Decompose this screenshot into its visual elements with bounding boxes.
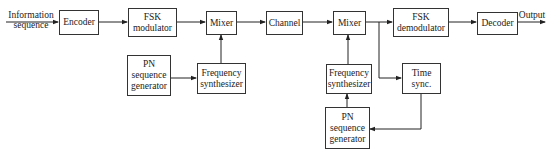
encoder-block: Encoder bbox=[59, 10, 99, 35]
freq-synth-rx-label-2: synthesizer bbox=[328, 79, 371, 90]
time-sync-label-1: Time bbox=[412, 68, 432, 79]
freq-synth-rx-label-1: Frequency bbox=[329, 68, 369, 79]
channel-label: Channel bbox=[269, 18, 301, 29]
pn-generator-tx-block: PN sequence generator bbox=[127, 55, 171, 96]
time-sync-label-2: sync. bbox=[412, 79, 432, 90]
output-label: Output bbox=[517, 10, 547, 20]
input-label-line2: sequence bbox=[3, 20, 59, 30]
freq-synth-tx-label-1: Frequency bbox=[201, 68, 241, 79]
frequency-synthesizer-tx-block: Frequency synthesizer bbox=[197, 63, 246, 94]
mixer-rx-block: Mixer bbox=[333, 11, 366, 35]
pn-gen-rx-label-3: generator bbox=[330, 134, 366, 145]
frequency-synthesizer-rx-block: Frequency synthesizer bbox=[326, 64, 372, 94]
fsk-demodulator-label-2: demodulator bbox=[397, 23, 445, 34]
channel-block: Channel bbox=[266, 11, 303, 35]
mixer-tx-block: Mixer bbox=[206, 11, 237, 35]
pn-gen-rx-label-2: sequence bbox=[330, 123, 365, 134]
freq-synth-tx-label-2: synthesizer bbox=[200, 79, 243, 90]
fsk-demodulator-block: FSK demodulator bbox=[393, 8, 449, 37]
input-label: Information sequence bbox=[3, 10, 59, 30]
pn-generator-rx-block: PN sequence generator bbox=[325, 107, 370, 149]
pn-gen-tx-label-1: PN bbox=[143, 59, 155, 70]
fsk-modulator-label-1: FSK bbox=[144, 12, 161, 23]
mixer-rx-label: Mixer bbox=[338, 18, 361, 29]
decoder-block: Decoder bbox=[477, 12, 518, 35]
pn-gen-rx-label-1: PN bbox=[341, 112, 353, 123]
fsk-demodulator-label-1: FSK bbox=[412, 12, 429, 23]
mixer-tx-label: Mixer bbox=[210, 18, 233, 29]
fsk-modulator-block: FSK modulator bbox=[128, 8, 177, 37]
decoder-label: Decoder bbox=[481, 18, 513, 29]
encoder-label: Encoder bbox=[63, 17, 95, 28]
pn-gen-tx-label-3: generator bbox=[131, 81, 167, 92]
fsk-modulator-label-2: modulator bbox=[133, 23, 172, 34]
time-sync-block: Time sync. bbox=[402, 63, 441, 94]
pn-gen-tx-label-2: sequence bbox=[132, 70, 167, 81]
input-label-line1: Information bbox=[3, 10, 59, 20]
